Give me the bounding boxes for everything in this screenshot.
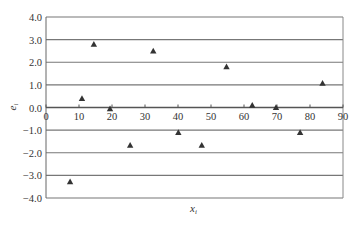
y-tick-labels: 4.03.02.01.00.0−1.0−2.0−3.0−4.0 — [23, 12, 42, 204]
y-tick-label: −3.0 — [23, 170, 42, 181]
y-axis-label: ei — [6, 104, 20, 111]
x-tick-label: 0 — [43, 111, 48, 122]
triangle-marker — [199, 142, 205, 148]
x-tick-label: 60 — [239, 111, 250, 122]
x-tick-label: 30 — [140, 111, 151, 122]
x-axis-label: xi — [189, 202, 197, 216]
y-tick-label: 3.0 — [29, 35, 42, 46]
y-tick-label: −4.0 — [23, 193, 42, 204]
x-tick-label: 50 — [206, 111, 217, 122]
y-tick-label: −1.0 — [23, 125, 42, 136]
triangle-marker — [223, 64, 229, 70]
residual-scatter-chart: 4.03.02.01.00.0−1.0−2.0−3.0−4.0 01020304… — [0, 0, 356, 226]
x-tick-label: 20 — [107, 111, 118, 122]
triangle-marker — [127, 142, 133, 148]
y-tick-label: −2.0 — [23, 148, 42, 159]
x-tick-label: 10 — [74, 111, 85, 122]
x-tick-label: 40 — [173, 111, 184, 122]
triangle-marker — [79, 95, 85, 101]
triangle-marker — [91, 41, 97, 47]
y-tick-label: 1.0 — [29, 80, 42, 91]
triangle-marker — [150, 48, 156, 54]
axes — [46, 17, 343, 198]
x-tick-label: 70 — [272, 111, 283, 122]
x-tick-label: 80 — [305, 111, 316, 122]
triangle-marker — [249, 102, 255, 108]
y-tick-label: 2.0 — [29, 57, 42, 68]
triangle-marker — [319, 80, 325, 86]
triangle-marker — [67, 179, 73, 185]
x-tick-labels: 0102030405060708090 — [43, 111, 348, 122]
x-tick-label: 90 — [338, 111, 349, 122]
y-tick-label: 4.0 — [29, 12, 42, 23]
y-tick-label: 0.0 — [29, 103, 42, 114]
